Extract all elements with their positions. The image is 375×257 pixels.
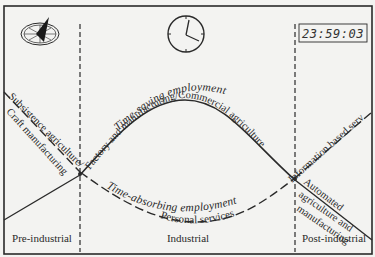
- digital-clock-icon: 23:59:03: [299, 24, 367, 42]
- crossing-point-left: [78, 172, 82, 176]
- digital-clock-time: 23:59:03: [302, 27, 364, 41]
- era-label-pre-industrial: Pre-industrial: [12, 232, 72, 244]
- diagram-canvas: 23:59:03 Time-saving employment Time-abs…: [0, 0, 375, 257]
- era-label-post-industrial: Post-industrial: [302, 232, 366, 244]
- era-label-industrial: Industrial: [167, 232, 209, 244]
